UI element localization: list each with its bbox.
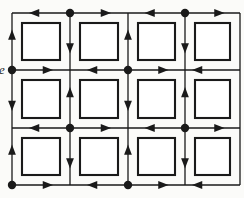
source-vertex-dot bbox=[181, 124, 189, 132]
arrowhead bbox=[29, 9, 39, 17]
arrowhead bbox=[158, 66, 168, 74]
lattice-square bbox=[195, 138, 230, 175]
arrowhead bbox=[124, 101, 132, 111]
arrowhead bbox=[192, 66, 202, 74]
arrowhead bbox=[8, 101, 16, 111]
arrowhead bbox=[145, 9, 155, 17]
lattice-square bbox=[80, 138, 118, 175]
lattice-square bbox=[138, 138, 175, 175]
arrowhead bbox=[124, 145, 132, 155]
arrowhead bbox=[145, 124, 155, 132]
lattice-figure: e bbox=[0, 0, 244, 198]
arrowhead bbox=[181, 43, 189, 53]
lattice-square bbox=[80, 80, 118, 118]
arrowhead bbox=[181, 158, 189, 168]
arrowhead bbox=[101, 124, 111, 132]
arrowhead bbox=[43, 181, 53, 189]
source-vertex-dot bbox=[8, 66, 16, 74]
margin-text-fragment: e bbox=[0, 62, 5, 78]
arrowhead bbox=[66, 87, 74, 97]
arrowhead bbox=[66, 158, 74, 168]
source-vertex-dot bbox=[124, 181, 132, 189]
lattice-square bbox=[22, 138, 60, 175]
lattice-square bbox=[138, 80, 175, 118]
lattice-square bbox=[195, 23, 230, 60]
arrowhead bbox=[29, 124, 39, 132]
lattice-square bbox=[22, 80, 60, 118]
lattice-canvas bbox=[0, 0, 244, 198]
arrowhead bbox=[66, 43, 74, 53]
lattice-square bbox=[195, 80, 230, 118]
arrowhead bbox=[181, 87, 189, 97]
arrowhead bbox=[214, 124, 224, 132]
lattice-square bbox=[80, 23, 118, 60]
arrowhead bbox=[124, 30, 132, 40]
arrowhead bbox=[192, 181, 202, 189]
arrowhead bbox=[101, 9, 111, 17]
source-vertex-dot bbox=[124, 66, 132, 74]
arrowhead bbox=[158, 181, 168, 189]
arrowhead bbox=[87, 66, 97, 74]
arrowhead bbox=[43, 66, 53, 74]
arrowhead bbox=[8, 145, 16, 155]
source-vertex-dot bbox=[8, 181, 16, 189]
lattice-square bbox=[22, 23, 60, 60]
source-vertex-dot bbox=[66, 124, 74, 132]
source-vertex-dot bbox=[66, 9, 74, 17]
arrowhead bbox=[87, 181, 97, 189]
arrowhead bbox=[8, 30, 16, 40]
lattice-square bbox=[138, 23, 175, 60]
arrowhead bbox=[214, 9, 224, 17]
source-vertex-dot bbox=[181, 9, 189, 17]
